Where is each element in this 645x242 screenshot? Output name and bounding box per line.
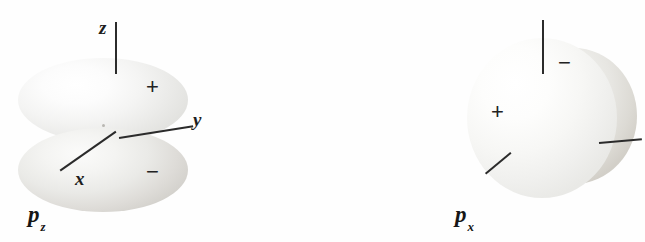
pz-z-axis-label: z xyxy=(99,18,106,37)
pz-x-axis-label: x xyxy=(75,169,85,188)
orbital-diagram-figure: z y x + − pz − + px xyxy=(0,0,645,242)
pz-y-axis-label: y xyxy=(193,110,201,129)
panel-py: − + py xyxy=(430,0,645,242)
pz-origin-dot xyxy=(102,124,105,127)
pz-plus-sign: + xyxy=(146,76,159,98)
pz-z-axis-line xyxy=(115,22,117,74)
pz-minus-sign: − xyxy=(146,161,159,183)
pz-orbital-label: pz xyxy=(28,203,45,230)
pz-orbital-label-subscript: z xyxy=(41,219,46,234)
panel-pz: z y x + − pz xyxy=(0,0,215,242)
pz-orbital-label-base: p xyxy=(28,202,40,227)
panel-px: − + px xyxy=(215,0,430,242)
